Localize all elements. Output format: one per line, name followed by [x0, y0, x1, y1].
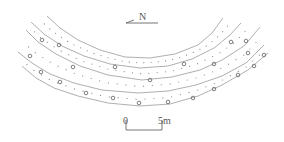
band-dot [26, 64, 27, 65]
post-hole [28, 54, 32, 58]
scale-end-label: 5m [158, 115, 171, 126]
band-dot [99, 66, 100, 67]
band-dot [107, 57, 108, 58]
band-dot [91, 64, 92, 65]
band-dot [219, 52, 220, 53]
band-dot [189, 66, 190, 67]
band-dot [193, 52, 194, 53]
band-dot [65, 85, 66, 86]
band-dot [178, 81, 179, 82]
north-label: N [139, 11, 146, 22]
post-hole [137, 101, 141, 105]
band-dot [255, 42, 256, 43]
band-dot [42, 57, 43, 58]
band-dot [148, 73, 149, 74]
band-dot [227, 26, 228, 27]
band-dot [222, 79, 223, 80]
post-hole [182, 62, 186, 66]
post-hole [111, 96, 115, 100]
band-dot [206, 45, 207, 46]
band-dot [165, 60, 166, 61]
band-dots [26, 23, 260, 100]
post-hole [58, 80, 62, 84]
scale-bar: 0 5m [123, 115, 171, 130]
band-dot [74, 88, 75, 89]
band-dot [100, 55, 101, 56]
band-dot [132, 72, 133, 73]
band-dot [82, 76, 83, 77]
band-dot [115, 70, 116, 71]
band-dot [186, 55, 187, 56]
band-dot [181, 68, 182, 69]
post-hole [246, 51, 250, 55]
band-dot [68, 54, 69, 55]
band-dot [58, 66, 59, 67]
band-dot [41, 74, 42, 75]
band-dot [212, 56, 213, 57]
post-hole [166, 100, 170, 104]
post-hole [71, 65, 75, 69]
band-dot [108, 82, 109, 83]
band-dot [107, 68, 108, 69]
post-hole [148, 78, 152, 82]
band-dot [244, 31, 245, 32]
band-dot [49, 28, 50, 29]
band-dot [249, 48, 250, 49]
band-dot [170, 83, 171, 84]
band-dot [246, 66, 247, 67]
band-dot [134, 85, 135, 86]
band-dot [153, 98, 154, 99]
band-dot [129, 61, 130, 62]
band-dot [87, 50, 88, 51]
band-dot [158, 61, 159, 62]
band-dot [34, 31, 35, 32]
band-dot [140, 73, 141, 74]
north-arrow: N [126, 11, 158, 23]
band-dot [197, 63, 198, 64]
band-dot [66, 69, 67, 70]
post-hole [84, 91, 88, 95]
band-dot [114, 59, 115, 60]
band-dot [80, 47, 81, 48]
band-dot [151, 62, 152, 63]
band-dot [180, 94, 181, 95]
band-dot [204, 75, 205, 76]
band-dot [67, 41, 68, 42]
band-dot [55, 33, 56, 34]
band-dot [73, 44, 74, 45]
band-dot [238, 71, 239, 72]
terrace-diagram: N 0 5m [0, 0, 284, 142]
band-dot [33, 70, 34, 71]
band-dot [40, 37, 41, 38]
band-dot [230, 75, 231, 76]
band-dot [161, 84, 162, 85]
band-outline [18, 45, 264, 93]
band-dot [136, 99, 137, 100]
band-dot [127, 98, 128, 99]
band-dot [54, 46, 55, 47]
band-dot [187, 79, 188, 80]
band-dot [91, 93, 92, 94]
band-dot [165, 71, 166, 72]
band-dot [74, 73, 75, 74]
post-hole [229, 40, 233, 44]
band-dot [99, 80, 100, 81]
band-dot [226, 47, 227, 48]
band-dot [220, 68, 221, 69]
band-dot [124, 71, 125, 72]
band-dot [125, 84, 126, 85]
band-dot [50, 62, 51, 63]
band-dot [82, 91, 83, 92]
band-dot [171, 96, 172, 97]
band-outline [26, 27, 260, 80]
band-dot [76, 58, 77, 59]
band-dot [222, 31, 223, 32]
post-hole [40, 38, 44, 42]
band-dot [214, 83, 215, 84]
band-dot [61, 51, 62, 52]
band-dot [239, 37, 240, 38]
band-dot [252, 61, 253, 62]
band-dot [162, 97, 163, 98]
band-dot [205, 86, 206, 87]
band-dot [93, 53, 94, 54]
